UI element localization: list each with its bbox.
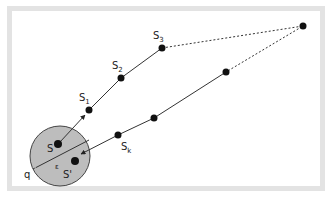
label-s1: S1 (79, 92, 90, 106)
label-sk: Sk (121, 141, 132, 155)
label-q: q (24, 169, 30, 180)
node-s2 (118, 75, 125, 82)
label-s2: S2 (112, 60, 123, 74)
node-s-prime (71, 157, 79, 165)
return-path (118, 72, 226, 135)
node-s (54, 140, 62, 148)
node-r1 (223, 69, 230, 76)
node-far (300, 23, 307, 30)
path-s1-s3 (89, 48, 162, 110)
dashed-path (162, 26, 303, 72)
epsilon-ball (30, 126, 90, 186)
label-epsilon: ε (55, 163, 59, 171)
node-s3 (159, 45, 166, 52)
node-sk (115, 132, 122, 139)
label-s-prime: S' (63, 169, 72, 180)
label-s: S (47, 143, 53, 154)
label-s3: S3 (153, 30, 164, 44)
trajectory-diagram: S S' ε q S1 S2 S3 Sk (0, 0, 334, 203)
node-s1 (86, 107, 93, 114)
node-r2 (151, 115, 158, 122)
